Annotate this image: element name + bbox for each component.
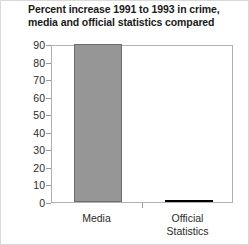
- bar-official-statistics: [165, 200, 213, 202]
- y-axis-tick-label: 40: [1, 128, 45, 139]
- y-axis-tick-label: 50: [1, 110, 45, 121]
- y-axis-tick-label: 80: [1, 57, 45, 68]
- y-axis-tick-label: 60: [1, 92, 45, 103]
- y-axis: 0102030405060708090: [1, 45, 45, 203]
- x-axis-tick-label-line: Media: [49, 212, 145, 225]
- chart-title: Percent increase 1991 to 1993 in crime, …: [28, 3, 238, 29]
- y-axis-tick-label: 10: [1, 180, 45, 191]
- y-axis-tick-mark: [46, 203, 51, 204]
- y-axis-tick-label: 90: [1, 40, 45, 51]
- x-axis-tick-mark: [142, 203, 143, 208]
- y-axis-tick-label: 30: [1, 145, 45, 156]
- bar-media: [74, 44, 122, 202]
- chart-title-line-1: Percent increase 1991 to 1993 in crime,: [28, 3, 238, 16]
- y-axis-tick-label: 70: [1, 75, 45, 86]
- y-axis-tick-mark: [46, 98, 51, 99]
- y-axis-tick-mark: [46, 168, 51, 169]
- y-axis-tick-mark: [46, 45, 51, 46]
- x-axis-tick-label-line: Statistics: [140, 225, 236, 238]
- y-axis-tick-label: 20: [1, 163, 45, 174]
- y-axis-tick-label: 0: [1, 198, 45, 209]
- x-axis-tick-label-line: Official: [140, 212, 236, 225]
- y-axis-tick-mark: [46, 115, 51, 116]
- bar-chart-figure: Percent increase 1991 to 1993 in crime, …: [0, 0, 249, 245]
- chart-title-line-2: media and official statistics compared: [28, 16, 238, 29]
- y-axis-tick-mark: [46, 80, 51, 81]
- y-axis-tick-mark: [46, 185, 51, 186]
- y-axis-tick-mark: [46, 150, 51, 151]
- x-axis-tick-label: Media: [49, 212, 145, 225]
- plot-area: [51, 45, 233, 203]
- y-axis-tick-mark: [46, 133, 51, 134]
- y-axis-tick-mark: [46, 63, 51, 64]
- x-axis-tick-label: OfficialStatistics: [140, 212, 236, 238]
